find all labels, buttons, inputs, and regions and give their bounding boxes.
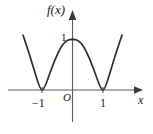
y-axis-arrow-icon (69, 10, 77, 20)
y-axis-tick-label-one: 1 (61, 32, 67, 43)
y-axis-function-label: f(x) (47, 3, 65, 16)
x-axis-tick-label-negative-one: −1 (32, 97, 45, 109)
origin-label: O (63, 92, 71, 103)
x-axis-tick-label-one: 1 (100, 97, 106, 109)
x-axis-name-label: x (138, 94, 143, 106)
function-graph-figure: f(x) 1 O −1 1 x (0, 0, 153, 134)
graph-canvas (0, 0, 153, 134)
